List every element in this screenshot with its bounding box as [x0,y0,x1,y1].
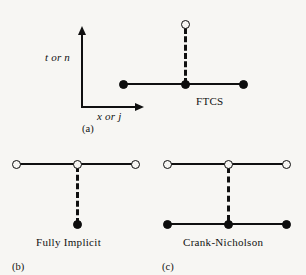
panel-c-node-open-right [282,160,291,169]
y-axis-arrowhead [78,26,86,35]
panel-a-node-open-upper [181,20,190,29]
x-axis-line [81,106,136,108]
x-axis-label: x or j [97,110,121,122]
panel-a-node-filled-center [181,80,190,89]
panel-a-node-filled-left [119,80,128,89]
panel-c-scheme-label: Crank-Nicholson [183,236,263,248]
panel-b-scheme-label: Fully Implicit [36,236,101,248]
panel-b-label: (b) [12,261,24,272]
panel-b-node-filled-lower [73,220,82,229]
panel-c-label: (c) [162,261,174,272]
x-axis-arrowhead [135,103,144,111]
panel-b-node-open-left [12,160,21,169]
panel-c-node-open-center [224,160,233,169]
panel-a-node-filled-right [239,80,248,89]
y-axis-line [81,34,83,108]
panel-c-node-filled-center [224,220,233,229]
panel-a-dashed-connector [184,28,187,84]
panel-b-node-open-center [73,160,82,169]
panel-c-node-filled-left [163,220,172,229]
y-axis-label: t or n [45,51,70,63]
panel-c-node-open-left [163,160,172,169]
panel-b-node-open-right [131,160,140,169]
panel-b-dashed-connector [76,166,79,224]
panel-a-label: (a) [82,123,94,134]
panel-a-scheme-label: FTCS [196,95,224,107]
stencil-figure: t or n x or j FTCS (a) Fully Implicit (b… [0,0,306,275]
panel-c-dashed-connector [227,167,230,221]
panel-c-node-filled-right [282,220,291,229]
